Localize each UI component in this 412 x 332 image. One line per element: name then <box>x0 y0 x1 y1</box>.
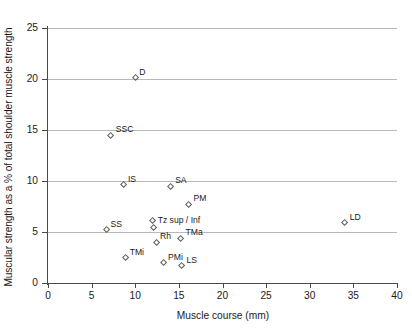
y-tick-label-25: 25 <box>6 22 38 33</box>
data-point-label: LS <box>186 256 197 265</box>
data-point-marker <box>122 254 129 261</box>
y-axis-title: Muscular strength as a % of total should… <box>3 12 17 302</box>
data-point-label: IS <box>128 175 136 184</box>
data-point-label: SS <box>110 220 121 229</box>
x-tick-mark-40 <box>397 283 398 288</box>
x-tick-label-5: 5 <box>77 290 107 301</box>
x-tick-label-30: 30 <box>295 290 325 301</box>
x-tick-label-35: 35 <box>338 290 368 301</box>
data-point-marker <box>177 234 184 241</box>
data-point-label: SSC <box>116 125 134 134</box>
data-point-label: SA <box>175 176 186 185</box>
gridline-y-10 <box>48 181 397 182</box>
y-tick-label-0: 0 <box>6 277 38 288</box>
y-tick-mark-25 <box>42 28 48 29</box>
data-point-marker <box>341 219 348 226</box>
data-point-marker <box>166 182 173 189</box>
y-tick-mark-10 <box>42 181 48 182</box>
scatter-chart-figure: Muscular strength as a % of total should… <box>0 0 412 332</box>
x-tick-label-15: 15 <box>164 290 194 301</box>
x-tick-mark-5 <box>92 283 93 288</box>
data-point-label: PMi <box>168 253 183 262</box>
data-point-marker <box>132 74 139 81</box>
data-point-marker <box>178 262 185 269</box>
data-point-label: Rh <box>160 232 171 241</box>
data-point-label: PM <box>193 194 206 203</box>
data-point-marker <box>150 224 157 231</box>
data-point-marker <box>185 201 192 208</box>
x-tick-mark-35 <box>353 283 354 288</box>
x-tick-mark-30 <box>310 283 311 288</box>
x-tick-mark-10 <box>135 283 136 288</box>
x-axis-title: Muscle course (mm) <box>48 310 398 321</box>
y-tick-mark-20 <box>42 79 48 80</box>
y-tick-label-5: 5 <box>6 226 38 237</box>
x-tick-mark-15 <box>179 283 180 288</box>
gridline-y-20 <box>48 79 397 80</box>
y-tick-label-15: 15 <box>6 124 38 135</box>
y-tick-label-10: 10 <box>6 175 38 186</box>
gridline-y-25 <box>48 28 397 29</box>
data-point-label: LD <box>350 213 361 222</box>
y-tick-label-20: 20 <box>6 73 38 84</box>
x-tick-label-25: 25 <box>251 290 281 301</box>
data-point-label: Tz sup / Inf <box>158 216 201 225</box>
x-tick-label-20: 20 <box>208 290 238 301</box>
gridline-y-15 <box>48 130 397 131</box>
x-tick-label-40: 40 <box>382 290 412 301</box>
data-point-label: TMa <box>186 228 203 237</box>
data-point-marker <box>107 131 114 138</box>
x-tick-mark-25 <box>266 283 267 288</box>
x-tick-label-0: 0 <box>33 290 63 301</box>
plot-area: DSSCISSAPMLDTz sup / InfSSTMaRhTMiPMiLS <box>48 28 397 283</box>
data-point-marker <box>160 259 167 266</box>
gridline-y-5 <box>48 232 397 233</box>
data-point-label: TMi <box>130 248 144 257</box>
y-tick-mark-5 <box>42 232 48 233</box>
x-tick-mark-20 <box>223 283 224 288</box>
x-tick-mark-0 <box>48 283 49 288</box>
data-point-label: D <box>139 68 145 77</box>
x-tick-label-10: 10 <box>120 290 150 301</box>
y-tick-mark-15 <box>42 130 48 131</box>
